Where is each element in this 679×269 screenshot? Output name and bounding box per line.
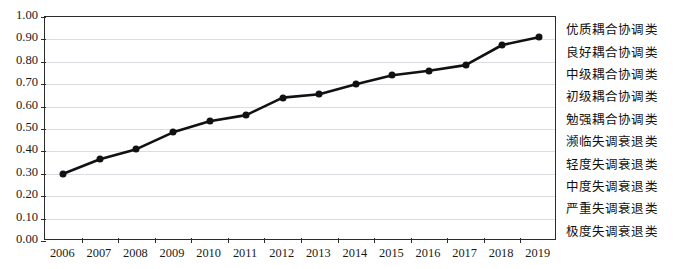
data-point-marker [462,62,469,69]
series-polyline [63,37,538,174]
data-point-marker [60,170,67,177]
band-category-label: 极度失调衰退类 [566,221,658,240]
y-axis-tick-label: 0.50 [0,120,38,135]
band-category-label: 优质耦合协调类 [566,19,658,38]
y-axis-tick-label: 0.80 [0,53,38,68]
band-category-label: 中级耦合协调类 [566,64,658,83]
data-point-marker [499,42,506,49]
y-axis-tick-label: 0.20 [0,187,38,202]
data-point-marker [352,81,359,88]
data-point-marker [96,156,103,163]
data-point-marker [316,91,323,98]
data-point-marker [535,34,542,41]
data-point-marker [279,94,286,101]
data-point-marker [426,67,433,74]
data-point-marker [389,72,396,79]
band-category-label: 严重失调衰退类 [566,198,658,217]
y-axis-tick-label: 1.00 [0,8,38,23]
y-axis-tick-label: 0.60 [0,98,38,113]
y-axis-tick-label: 0.10 [0,210,38,225]
plot-area [44,16,556,240]
data-line [45,17,557,241]
y-axis-tick-label: 0.90 [0,30,38,45]
band-category-label: 濒临失调衰退类 [566,131,658,150]
y-axis-tick-label: 0.70 [0,75,38,90]
data-point-marker [133,146,140,153]
coupling-coordination-line-chart: 1.000.900.800.700.600.500.400.300.200.10… [0,0,679,269]
band-category-label: 轻度失调衰退类 [566,154,658,173]
band-category-label: 初级耦合协调类 [566,86,658,105]
data-point-marker [206,118,213,125]
data-point-marker [243,112,250,119]
band-category-label: 中度失调衰退类 [566,176,658,195]
y-axis-tick-label: 0.00 [0,232,38,247]
x-axis-tick-label: 2019 [516,246,560,261]
y-axis-tick-label: 0.30 [0,165,38,180]
band-category-label: 勉强耦合协调类 [566,109,658,128]
y-axis-tick-label: 0.40 [0,142,38,157]
y-axis-tick [41,241,46,242]
band-category-label: 良好耦合协调类 [566,42,658,61]
data-point-marker [170,129,177,136]
